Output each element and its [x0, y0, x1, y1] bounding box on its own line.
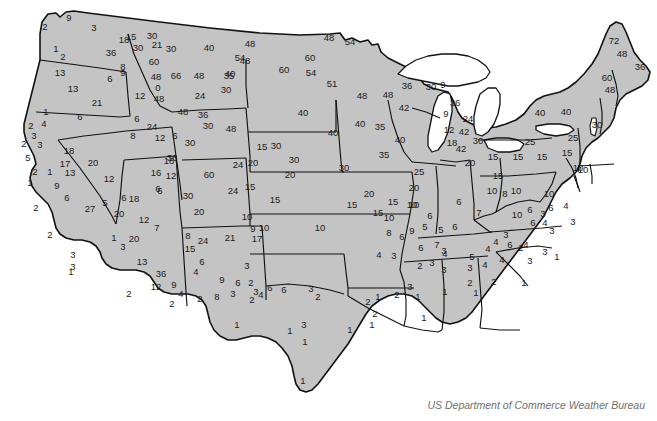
map-caption: US Department of Commerce Weather Bureau: [428, 399, 645, 411]
us-landmass: [24, 11, 650, 392]
border-ma-ct: [578, 164, 614, 166]
us-map-outline: [0, 0, 657, 421]
us-weather-map: 2931513621213861321161891268243030306048…: [0, 0, 657, 421]
lake-champlain: [590, 118, 597, 136]
border-ct-ny: [590, 164, 592, 184]
landmass-group: [24, 11, 650, 392]
border-ga-fl: [480, 328, 520, 330]
border-de-md: [574, 176, 580, 192]
border-la-ms: [404, 326, 442, 332]
